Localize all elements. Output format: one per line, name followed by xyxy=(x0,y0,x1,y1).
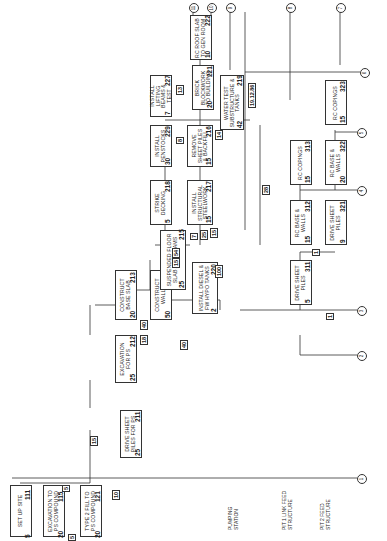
activity-duration: 20 xyxy=(206,101,213,108)
float-label: 54 xyxy=(172,248,180,258)
activity-id: 115 xyxy=(57,492,64,503)
connector-1: 1 xyxy=(357,474,367,484)
activity-duration: 15 xyxy=(205,216,212,223)
float-label: 14 xyxy=(215,130,223,140)
activity-id: 217 xyxy=(205,181,212,192)
activity-duration: 25 xyxy=(129,374,136,381)
activity-label: SET UP SITE xyxy=(18,495,24,528)
activity-duration: 30 xyxy=(164,158,171,165)
float-label: 28 xyxy=(262,185,270,195)
activity-id: 313 xyxy=(304,141,311,152)
connector-4: 4 xyxy=(357,186,367,196)
activity-duration: 9 xyxy=(339,239,346,243)
activity-duration: 15 xyxy=(339,116,346,123)
float-label: 15 xyxy=(210,228,218,238)
activity-label: RC COPINGS xyxy=(298,143,304,183)
activity-duration: 20 xyxy=(339,176,346,183)
connector-9: 9 xyxy=(226,3,236,13)
activity-id: 121 xyxy=(94,491,101,502)
float-label: 18 xyxy=(140,335,148,345)
float-label: 7 xyxy=(190,233,198,240)
activity-id: 222 xyxy=(204,15,211,26)
activity-id: 323 xyxy=(339,81,346,92)
float-label: 1 xyxy=(312,249,320,256)
activity-duration: 5 xyxy=(24,534,31,538)
connector-5: 5 xyxy=(357,128,367,138)
activity-id: 312 xyxy=(304,201,311,212)
activity-duration: 7 xyxy=(164,111,171,115)
float-label: 5 xyxy=(68,534,76,541)
activity-duration: 15 xyxy=(304,236,311,243)
connector-2: 2 xyxy=(357,351,367,361)
activity-id: 321 xyxy=(339,201,346,212)
activity-id: 229 xyxy=(164,126,171,137)
activity-label: RC COPINGS xyxy=(333,83,339,123)
float-label: 15 xyxy=(172,258,180,268)
activity-label: INSTALL DIESEL & Fw HYPO TANKS xyxy=(199,264,210,312)
activity-id: 111 xyxy=(24,490,31,500)
activity-duration: 25 xyxy=(134,449,141,456)
activity-id: 311 xyxy=(304,262,311,273)
activity-duration: 2 xyxy=(210,308,217,312)
float-label: 1 xyxy=(326,313,334,320)
activity-id: 213 xyxy=(129,272,136,283)
activity-id: 218 xyxy=(164,181,171,192)
float-label: 15 xyxy=(90,436,98,446)
float-label: 8 xyxy=(176,137,184,144)
activity-id: 211 xyxy=(134,412,141,423)
activity-duration: 50 xyxy=(164,311,171,318)
section-label-pumping-station: PUMPING STATION xyxy=(228,490,239,530)
float-label: 40 xyxy=(140,320,148,330)
float-label: 10 xyxy=(112,490,120,500)
connector-6: 6 xyxy=(360,68,370,78)
activity-duration: 5 xyxy=(304,299,311,303)
activity-duration: 42 xyxy=(236,121,243,128)
activity-id: 216 xyxy=(205,126,212,137)
float-label: 100 xyxy=(215,265,223,278)
connector-10: 10 xyxy=(207,3,217,13)
activity-id: 215 xyxy=(178,229,185,240)
connector-3: 3 xyxy=(357,306,367,316)
activity-id: 212 xyxy=(129,336,136,347)
connector-7: 7 xyxy=(336,3,346,13)
activity-id: 219 xyxy=(236,75,243,86)
float-label: 25 xyxy=(200,230,208,240)
activity-id: 221 xyxy=(206,66,213,77)
connector-8: 8 xyxy=(286,3,296,13)
float-label: 13 xyxy=(176,85,184,95)
float-label: 5 xyxy=(62,485,70,492)
section-label-pit2: PIT 2 FEED STRUCTURE xyxy=(320,480,331,530)
activity-id: 322 xyxy=(339,141,346,152)
float-label: 40 xyxy=(180,340,188,350)
activity-duration: 15 xyxy=(304,176,311,183)
activity-duration: 20 xyxy=(94,531,101,538)
activity-duration: 20 xyxy=(57,531,64,538)
activity-duration: 20 xyxy=(129,311,136,318)
date-note: 19.12.86 xyxy=(248,83,256,108)
network-diagram: SET UP SITE 111 5 EXCAVATION TO PS COMPO… xyxy=(0,0,387,541)
activity-duration: 15 xyxy=(205,158,212,165)
activity-id: 227 xyxy=(164,75,171,86)
connector-11: 11 xyxy=(189,3,199,13)
activity-duration: 25 xyxy=(178,281,185,288)
activity-duration: 10 xyxy=(204,51,211,58)
activity-duration: 5 xyxy=(164,219,171,223)
section-label-pit1: PIT 1 LINK FEED STRUCTURE xyxy=(282,480,293,530)
